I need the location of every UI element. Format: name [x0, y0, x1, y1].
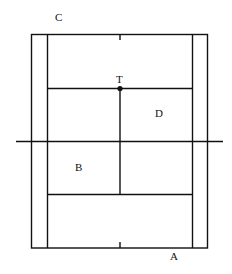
tennis-court-diagram: C T D B A — [0, 0, 232, 274]
label-a: A — [170, 250, 178, 262]
label-d: D — [155, 107, 163, 119]
court-svg: C T D B A — [0, 0, 232, 274]
label-b: B — [75, 161, 82, 173]
t-point-dot — [117, 86, 122, 91]
label-c: C — [55, 11, 62, 23]
label-t: T — [116, 73, 123, 85]
